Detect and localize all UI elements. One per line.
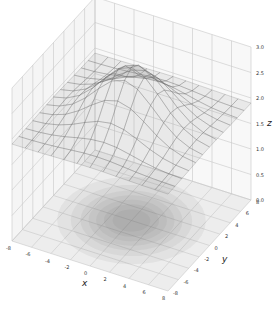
svg-text:0.5: 0.5 — [256, 172, 264, 178]
svg-text:2.5: 2.5 — [256, 70, 264, 76]
surface-plot: -8-6-4-202468-8-6-4-2024680.00.51.01.52.… — [0, 0, 277, 310]
svg-text:-4: -4 — [45, 258, 50, 264]
svg-text:0: 0 — [84, 270, 87, 276]
svg-text:-6: -6 — [183, 279, 188, 285]
svg-text:-8: -8 — [6, 245, 11, 251]
svg-text:-2: -2 — [204, 256, 209, 262]
svg-text:-4: -4 — [194, 267, 199, 273]
svg-text:-8: -8 — [173, 290, 178, 296]
svg-text:4: 4 — [123, 283, 126, 289]
svg-text:1.0: 1.0 — [256, 146, 264, 152]
svg-text:8: 8 — [162, 295, 165, 301]
svg-text:2.0: 2.0 — [256, 95, 264, 101]
svg-text:1.5: 1.5 — [256, 121, 264, 127]
svg-text:4: 4 — [235, 222, 238, 228]
z-axis-label: z — [266, 118, 272, 128]
svg-text:2: 2 — [104, 276, 107, 282]
floor-contour — [57, 177, 206, 264]
svg-text:-2: -2 — [65, 264, 70, 270]
svg-text:2: 2 — [225, 233, 228, 239]
y-axis-label: y — [221, 254, 228, 264]
svg-text:3.0: 3.0 — [256, 44, 264, 50]
svg-text:0.0: 0.0 — [256, 197, 264, 203]
svg-text:0: 0 — [215, 245, 218, 251]
svg-text:6: 6 — [246, 210, 249, 216]
svg-text:6: 6 — [143, 289, 146, 295]
svg-text:-6: -6 — [26, 251, 31, 257]
x-axis-label: x — [81, 278, 88, 288]
